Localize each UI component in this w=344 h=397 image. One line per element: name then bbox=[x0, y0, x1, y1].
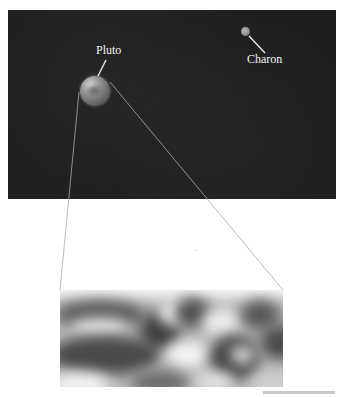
pluto-label: Pluto bbox=[96, 44, 121, 56]
space-image-panel bbox=[8, 10, 336, 199]
image-credit bbox=[263, 391, 335, 394]
charon-label: Charon bbox=[247, 53, 282, 65]
speck bbox=[195, 250, 196, 251]
pluto-planet bbox=[80, 76, 110, 106]
charon-moon bbox=[241, 27, 250, 36]
pluto-surface-zoom-inset bbox=[60, 290, 283, 387]
